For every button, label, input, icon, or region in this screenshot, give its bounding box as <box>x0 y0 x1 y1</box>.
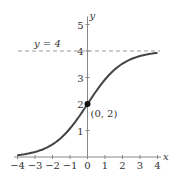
svg-text:−3: −3 <box>28 160 43 171</box>
logistic-plot: −4−3−2−10123412345 y = 4 (0, 2) x y <box>0 0 173 183</box>
svg-text:1: 1 <box>102 160 108 171</box>
point-marker <box>85 101 91 107</box>
svg-text:3: 3 <box>77 73 83 84</box>
svg-text:−2: −2 <box>45 160 60 171</box>
svg-text:−1: −1 <box>63 160 78 171</box>
svg-text:5: 5 <box>77 20 83 31</box>
y-axis-label: y <box>89 10 96 21</box>
svg-text:3: 3 <box>137 160 143 171</box>
asymptote-label: y = 4 <box>33 38 61 49</box>
svg-text:2: 2 <box>119 160 125 171</box>
point-label: (0, 2) <box>91 108 118 119</box>
chart: −4−3−2−10123412345 y = 4 (0, 2) x y <box>0 0 173 183</box>
x-axis-label: x <box>163 151 169 162</box>
svg-text:−4: −4 <box>10 160 25 171</box>
svg-text:2: 2 <box>77 99 83 110</box>
ticks: −4−3−2−10123412345 <box>10 20 161 172</box>
svg-text:0: 0 <box>84 160 90 171</box>
svg-text:4: 4 <box>154 160 160 171</box>
svg-text:1: 1 <box>77 126 83 137</box>
